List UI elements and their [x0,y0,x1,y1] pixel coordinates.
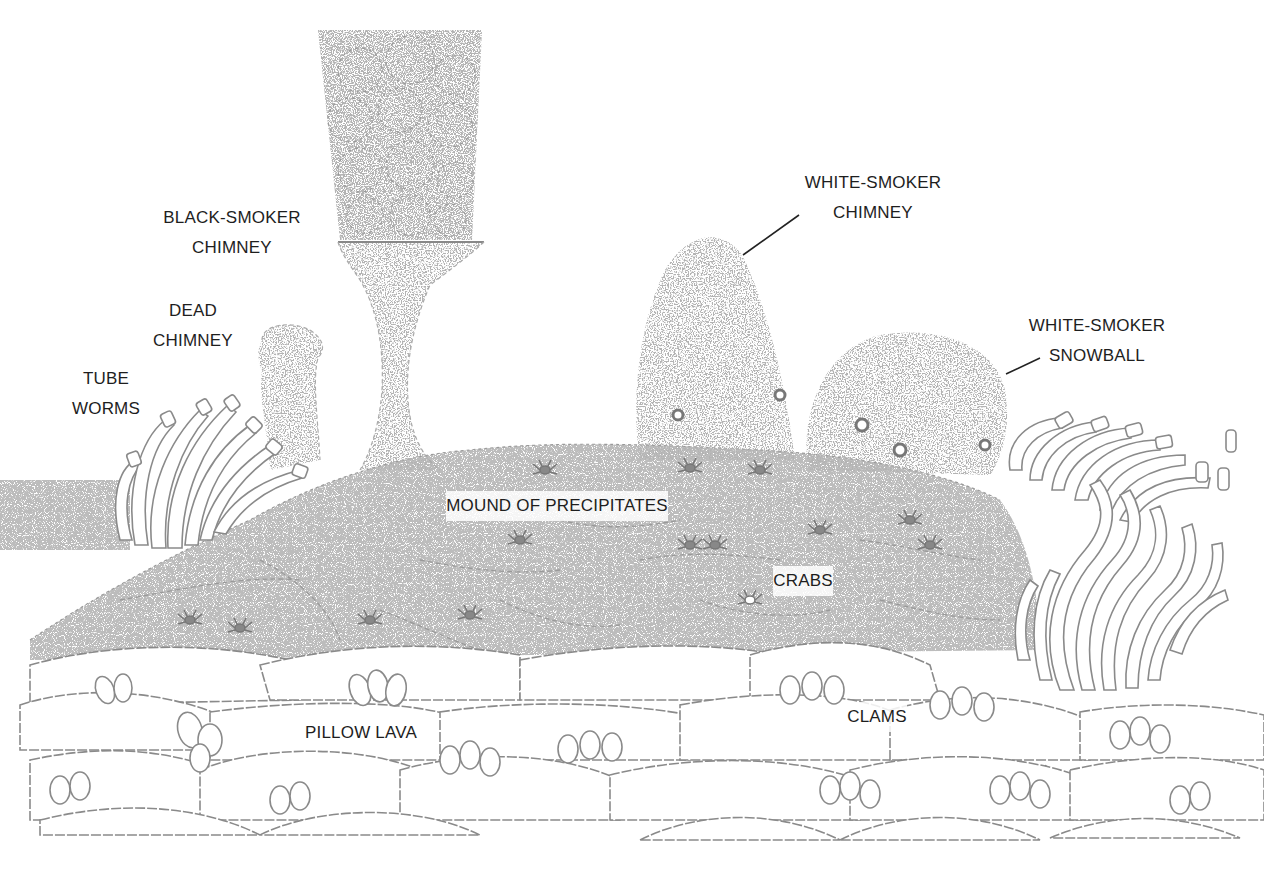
label-line: MOUND OF PRECIPITATES [446,491,668,521]
label-pillow-lava: PILLOW LAVA [281,718,441,748]
vent-illustration [0,0,1264,873]
seafloor-texture [0,480,130,550]
black-smoker-chimney-shape [318,30,484,470]
label-line: CHIMNEY [133,326,253,356]
label-mound-of-precipitates: MOUND OF PRECIPITATES [417,491,697,521]
label-line: SNOWBALL [1017,341,1177,371]
leader-line-white-smoker-chimney [743,215,799,255]
label-line: CHIMNEY [793,198,953,228]
label-line: CHIMNEY [152,233,312,263]
label-black-smoker-chimney: BLACK-SMOKER CHIMNEY [152,203,312,263]
white-smoker-chimney-shape [636,237,795,460]
label-clams: CLAMS [837,702,917,732]
label-line: TUBE [56,364,156,394]
label-line: BLACK-SMOKER [152,203,312,233]
tube-worms-right-shape [1009,411,1236,690]
label-dead-chimney: DEAD CHIMNEY [133,296,253,356]
label-line: WHITE-SMOKER [793,168,953,198]
label-line: DEAD [133,296,253,326]
label-line: CRABS [773,566,833,596]
label-tube-worms: TUBE WORMS [56,364,156,424]
label-line: CLAMS [847,702,907,732]
label-line: WHITE-SMOKER [1017,311,1177,341]
label-line: WORMS [56,394,156,424]
label-white-smoker-snowball: WHITE-SMOKER SNOWBALL [1017,311,1177,371]
label-crabs: CRABS [763,566,843,596]
label-white-smoker-chimney: WHITE-SMOKER CHIMNEY [793,168,953,228]
label-line: PILLOW LAVA [305,718,417,748]
